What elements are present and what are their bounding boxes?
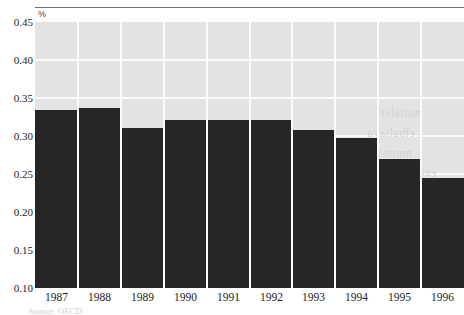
y-axis-tick-label: 0.30 xyxy=(1,131,33,142)
y-axis-tick-label: 0.35 xyxy=(1,93,33,104)
bar xyxy=(421,178,464,288)
bar xyxy=(292,130,335,288)
x-axis: 1987198819891990199119921993199419951996 xyxy=(35,290,464,306)
bar xyxy=(378,159,421,288)
x-axis-tick-label: 1990 xyxy=(164,290,207,304)
y-axis: 0.450.400.350.300.250.200.150.10 xyxy=(0,22,33,288)
chart-figure: % noitalerelbaliavamumitpoevobacne 0.450… xyxy=(0,0,464,315)
x-axis-tick-label: 1989 xyxy=(121,290,164,304)
gridline-x xyxy=(377,22,379,288)
y-axis-tick-label: 0.45 xyxy=(1,17,33,28)
gridline-x xyxy=(420,22,422,288)
x-axis-tick-label: 1991 xyxy=(207,290,250,304)
plot-area: noitalerelbaliavamumitpoevobacne xyxy=(35,22,464,288)
x-axis-tick-label: 1993 xyxy=(292,290,335,304)
x-axis-tick-label: 1996 xyxy=(421,290,464,304)
gridline-x xyxy=(77,22,79,288)
y-axis-unit-label: % xyxy=(38,9,46,20)
gridline-x xyxy=(120,22,122,288)
bar xyxy=(164,120,207,288)
top-rule-divider xyxy=(35,7,464,8)
ghost-text-line: noitaler xyxy=(380,106,421,121)
bar xyxy=(35,110,78,288)
gridline-x xyxy=(249,22,251,288)
x-axis-tick-label: 1992 xyxy=(250,290,293,304)
gridline-x xyxy=(163,22,165,288)
footer-source-clipped: Source: OECD xyxy=(28,306,148,315)
x-axis-tick-label: 1995 xyxy=(378,290,421,304)
y-axis-tick-label: 0.20 xyxy=(1,207,33,218)
y-axis-tick-label: 0.10 xyxy=(1,283,33,294)
x-axis-tick-label: 1988 xyxy=(78,290,121,304)
gridline-x xyxy=(334,22,336,288)
footer-source-text: Source: OECD xyxy=(28,306,148,315)
bar xyxy=(121,128,164,288)
gridline-x xyxy=(206,22,208,288)
y-axis-tick-label: 0.25 xyxy=(1,169,33,180)
x-axis-tick-label: 1987 xyxy=(35,290,78,304)
x-axis-tick-label: 1994 xyxy=(335,290,378,304)
bar xyxy=(207,120,250,288)
bar xyxy=(335,138,378,288)
y-axis-tick-label: 0.15 xyxy=(1,245,33,256)
gridline-x xyxy=(291,22,293,288)
bar xyxy=(250,120,292,288)
bar xyxy=(78,108,121,288)
y-axis-tick-label: 0.40 xyxy=(1,55,33,66)
